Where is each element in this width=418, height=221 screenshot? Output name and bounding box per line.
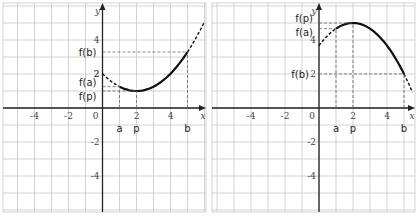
label-b: b bbox=[184, 123, 190, 134]
curve-dashed-left bbox=[103, 74, 120, 87]
y-tick-label: -4 bbox=[307, 171, 316, 181]
label-f-p: f(p) bbox=[79, 91, 97, 102]
label-f-b: f(b) bbox=[79, 47, 97, 58]
y-tick-label: -2 bbox=[91, 137, 100, 147]
label-a: a bbox=[116, 123, 122, 134]
x-tick-label: -2 bbox=[281, 111, 290, 121]
x-tick-label: 4 bbox=[168, 111, 174, 121]
y-arrow-icon bbox=[100, 3, 106, 10]
curve-dashed-left bbox=[319, 29, 336, 46]
y-tick-label: 2 bbox=[310, 69, 316, 79]
y-axis-label: y bbox=[94, 6, 101, 16]
origin-label: 0 bbox=[309, 111, 315, 121]
y-tick-label: -4 bbox=[91, 171, 100, 181]
x-tick-label: 2 bbox=[350, 111, 356, 121]
chart-upward-parabola: xy-4-202442-2-4apbf(b)f(a)f(p)2 bbox=[0, 0, 209, 221]
label-f-a: f(a) bbox=[296, 27, 314, 38]
x-tick-label: 2 bbox=[134, 111, 140, 121]
label-a: a bbox=[333, 123, 339, 134]
curve-dashed-right bbox=[404, 74, 413, 92]
x-axis-label: x bbox=[200, 111, 205, 121]
y-tick-label: -2 bbox=[307, 137, 316, 147]
label-f-p: f(p) bbox=[295, 13, 313, 24]
label-b: b bbox=[401, 123, 407, 134]
chart-svg: xy-4-202442-2-4apbf(p)f(a)f(b) bbox=[209, 0, 418, 221]
curve-dashed-right bbox=[188, 22, 205, 52]
y-tick-label: 4 bbox=[94, 35, 100, 45]
guide-lines bbox=[319, 23, 404, 108]
chart-downward-parabola: xy-4-202442-2-4apbf(p)f(a)f(b) bbox=[209, 0, 418, 221]
origin-label: 0 bbox=[93, 111, 99, 121]
label-f-b: f(b) bbox=[291, 69, 309, 80]
x-axis-label: x bbox=[409, 111, 414, 121]
x-tick-label: -2 bbox=[64, 111, 73, 121]
x-tick-label: 4 bbox=[384, 111, 390, 121]
axes bbox=[3, 3, 206, 212]
label-p: p bbox=[350, 123, 356, 134]
y-arrow-icon bbox=[316, 3, 322, 10]
guide-lines bbox=[103, 52, 188, 108]
chart-svg: xy-4-202442-2-4apbf(b)f(a)f(p)2 bbox=[0, 0, 209, 221]
x-tick-label: -4 bbox=[247, 111, 256, 121]
label-p: p bbox=[133, 123, 139, 134]
y-tick-label: 2 bbox=[94, 69, 100, 79]
x-tick-label: -4 bbox=[30, 111, 39, 121]
